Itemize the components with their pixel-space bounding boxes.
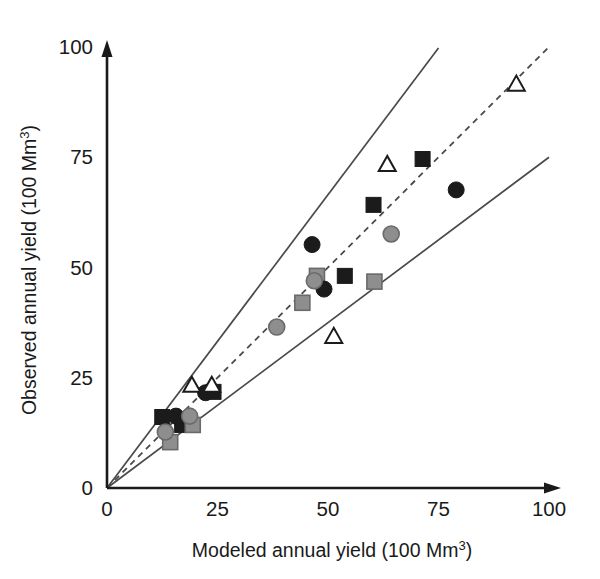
x-tick-label-100: 100 bbox=[532, 497, 566, 520]
y-tick-label-0: 0 bbox=[82, 476, 93, 499]
y-axis-title: Observed annual yield (100 Mm3) bbox=[17, 125, 40, 415]
data-point-gray-circles-3 bbox=[306, 273, 322, 289]
x-tick-labels-group: 0255075100 bbox=[101, 497, 566, 520]
plot-canvas: 0255075100 0255075100 Modeled annual yie… bbox=[0, 0, 600, 579]
data-point-gray-squares-4 bbox=[367, 274, 382, 289]
data-point-open-triangles-4 bbox=[508, 76, 525, 91]
data-point-black-circles-4 bbox=[448, 182, 464, 198]
scatter-plot-figure: 0255075100 0255075100 Modeled annual yie… bbox=[0, 0, 600, 579]
y-tick-label-25: 25 bbox=[70, 366, 93, 389]
data-point-gray-circles-0 bbox=[157, 424, 173, 440]
data-point-gray-circles-1 bbox=[182, 408, 198, 424]
x-tick-label-75: 75 bbox=[427, 497, 450, 520]
y-axis-arrowhead bbox=[102, 40, 113, 57]
x-axis-arrowhead bbox=[544, 483, 561, 494]
data-point-open-triangles-3 bbox=[379, 156, 396, 171]
data-point-black-squares-4 bbox=[366, 197, 381, 212]
y-tick-labels-group: 0255075100 bbox=[59, 35, 93, 499]
x-axis-title: Modeled annual yield (100 Mm3) bbox=[192, 538, 472, 561]
x-tick-label-25: 25 bbox=[206, 497, 229, 520]
data-point-black-circles-2 bbox=[304, 237, 320, 253]
data-point-black-squares-3 bbox=[337, 268, 352, 283]
x-tick-label-0: 0 bbox=[101, 497, 112, 520]
y-tick-label-100: 100 bbox=[59, 35, 93, 58]
y-tick-label-50: 50 bbox=[70, 256, 93, 279]
data-markers-group bbox=[155, 76, 525, 450]
data-point-open-triangles-2 bbox=[325, 328, 342, 343]
x-tick-label-50: 50 bbox=[317, 497, 340, 520]
data-point-gray-squares-2 bbox=[295, 295, 310, 310]
data-point-gray-circles-4 bbox=[383, 226, 399, 242]
data-point-black-squares-5 bbox=[415, 152, 430, 167]
y-tick-label-75: 75 bbox=[70, 145, 93, 168]
data-point-gray-circles-2 bbox=[269, 319, 285, 335]
